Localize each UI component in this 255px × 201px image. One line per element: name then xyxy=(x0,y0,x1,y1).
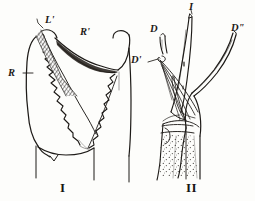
label-D: D xyxy=(150,24,158,35)
label-I-prong: I xyxy=(189,2,193,13)
leader-Dprime xyxy=(148,59,158,62)
figure-two-artwork xyxy=(148,10,236,180)
label-L-prime: L' xyxy=(45,15,54,26)
figure-numeral-one: I xyxy=(60,181,66,194)
label-R: R xyxy=(8,68,15,79)
figure-one-artwork xyxy=(23,19,131,182)
label-D-double-prime: D" xyxy=(231,23,244,34)
leader-Lprime xyxy=(37,19,43,28)
figure-numeral-two: II xyxy=(186,181,197,194)
engraving-plate: R L' R' D D' I D" I II xyxy=(0,0,255,201)
label-R-prime: R' xyxy=(80,27,90,38)
plate-artwork xyxy=(0,0,255,201)
label-D-prime: D' xyxy=(131,55,142,66)
